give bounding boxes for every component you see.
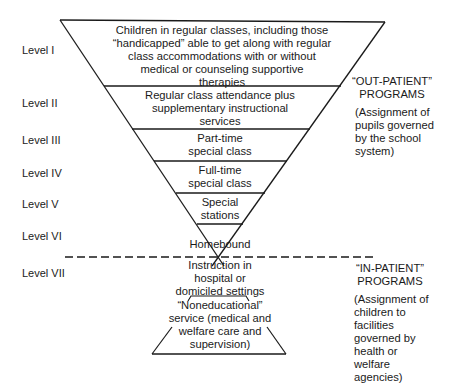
in-patient-annotation: “IN-PATIENT” PROGRAMS (Assignment of chi… (354, 262, 454, 384)
tier-2-text: Regular class attendance plus supplement… (120, 89, 320, 128)
tier-5-text: Special stations (170, 196, 270, 222)
in-patient-description: (Assignment of children to facilities go… (354, 293, 454, 384)
tier-3-line-2: special class (160, 145, 280, 158)
in-patient-title-line-1: “IN-PATIENT” (354, 262, 426, 275)
in-patient-desc-line-6: welfare (354, 358, 454, 371)
tier-1-line-5: therapies (100, 76, 344, 89)
in-patient-title-line-2: PROGRAMS (354, 275, 426, 288)
tier-1-text: Children in regular classes, including t… (100, 24, 344, 89)
tier-2-line-3: services (120, 115, 320, 128)
level-label-2: Level II (22, 97, 57, 110)
tier-3-line-1: Part-time (160, 132, 280, 145)
tier-4-line-2: special class (160, 177, 280, 190)
tier-7-line-2: hospital or (150, 272, 290, 285)
level-label-4: Level IV (22, 167, 62, 180)
tier-3-text: Part-time special class (160, 132, 280, 158)
tier-8-line-1: “Noneducational” (150, 299, 290, 312)
tier-1-line-2: “handicapped” able to get along with reg… (100, 37, 344, 50)
out-patient-title: “OUT-PATIENT” PROGRAMS (352, 75, 432, 101)
tier-7-line-3: domiciled settings (150, 285, 290, 298)
tier-2-line-1: Regular class attendance plus (120, 89, 320, 102)
tier-4-text: Full-time special class (160, 164, 280, 190)
tier-6-text: Homebound (170, 238, 270, 251)
out-patient-desc-line-1: (Assignment of (355, 106, 452, 119)
out-patient-desc-line-4: system) (355, 145, 452, 158)
out-patient-title-line-1: “OUT-PATIENT” (352, 75, 432, 88)
in-patient-desc-line-1: (Assignment of (354, 293, 454, 306)
out-patient-title-line-2: PROGRAMS (352, 88, 432, 101)
tier-5-line-2: stations (170, 209, 270, 222)
in-patient-desc-line-2: children to (354, 306, 454, 319)
out-patient-description: (Assignment of pupils governed by the sc… (352, 106, 452, 158)
tier-1-line-3: class accommodations with or without (100, 50, 344, 63)
level-label-6: Level VI (22, 230, 62, 243)
in-patient-desc-line-4: governed by (354, 332, 454, 345)
level-label-7: Level VII (22, 267, 65, 280)
out-patient-desc-line-2: pupils governed (355, 119, 452, 132)
tier-5-line-1: Special (170, 196, 270, 209)
in-patient-desc-line-7: agencies) (354, 371, 454, 384)
tier-8-line-4: supervision) (150, 338, 290, 351)
out-patient-annotation: “OUT-PATIENT” PROGRAMS (Assignment of pu… (352, 75, 452, 158)
level-label-5: Level V (22, 198, 59, 211)
out-patient-desc-line-3: by the school (355, 132, 452, 145)
tier-7-line-1: Instruction in (150, 259, 290, 272)
tier-1-line-1: Children in regular classes, including t… (100, 24, 344, 37)
in-patient-desc-line-5: health or (354, 345, 454, 358)
in-patient-title: “IN-PATIENT” PROGRAMS (354, 262, 426, 288)
level-label-1: Level I (22, 44, 54, 57)
in-patient-desc-line-3: facilities (354, 319, 454, 332)
triangle-top-edge (60, 20, 385, 22)
tier-1-line-4: medical or counseling supportive (100, 63, 344, 76)
tier-4-line-1: Full-time (160, 164, 280, 177)
tier-7-text: Instruction in hospital or domiciled set… (150, 259, 290, 298)
tier-6-line-1: Homebound (170, 238, 270, 251)
tier-8-line-2: service (medical and (150, 312, 290, 325)
tier-2-line-2: supplementary instructional (120, 102, 320, 115)
level-label-3: Level III (22, 134, 61, 147)
tier-8-text: “Noneducational” service (medical and we… (150, 299, 290, 351)
tier-8-line-3: welfare care and (150, 325, 290, 338)
